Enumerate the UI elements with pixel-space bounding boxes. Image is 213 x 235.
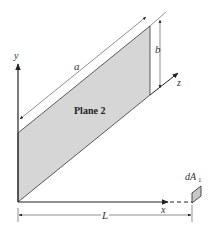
- z-axis-label: z: [177, 78, 181, 88]
- dimension-a-extension-top: [150, 12, 166, 26]
- dimension-a-label: a: [74, 61, 80, 72]
- z-axis: [150, 73, 178, 95]
- area-element-label: dA1: [185, 172, 202, 184]
- dimension-L-label: L: [101, 210, 109, 221]
- plane-2-label: Plane 2: [74, 106, 105, 116]
- view-factor-diagram: [0, 0, 213, 235]
- x-axis-label: x: [161, 205, 165, 215]
- area-element-label-main: dA: [185, 171, 196, 182]
- area-element-label-subscript: 1: [198, 176, 202, 184]
- y-axis-label: y: [14, 51, 18, 61]
- area-element-dA1: [192, 186, 201, 203]
- dimension-b-label: b: [155, 44, 161, 55]
